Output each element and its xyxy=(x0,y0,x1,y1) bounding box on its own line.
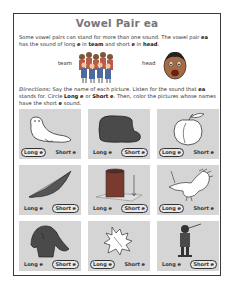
group-of-children-icon xyxy=(76,48,116,84)
answer-options: Long e Short e xyxy=(21,260,79,269)
answer-options: Long e Short e xyxy=(159,204,217,213)
seal-icon xyxy=(23,111,77,147)
directions-text: stands for. Circle xyxy=(19,93,64,99)
intro-word-team: team xyxy=(88,41,103,47)
picture-card-bread[interactable]: Long e Short e xyxy=(88,109,150,159)
option-long-e[interactable]: Long e xyxy=(159,204,184,213)
thread-spool-icon xyxy=(92,167,146,203)
worksheet-title: Vowel Pair ea xyxy=(14,17,220,29)
option-short-e[interactable]: Short e xyxy=(121,260,148,269)
example-row: team head xyxy=(14,48,220,84)
eagle-icon xyxy=(161,167,215,203)
answer-options: Long e Short e xyxy=(90,148,148,157)
option-long-e[interactable]: Long e xyxy=(90,204,115,213)
directions-long-e: Long e xyxy=(64,93,84,99)
option-short-e[interactable]: Short e xyxy=(52,148,79,157)
intro-word-head: head xyxy=(143,41,157,47)
option-long-e[interactable]: Long e xyxy=(90,148,115,157)
answer-options: Long e Short e xyxy=(159,148,217,157)
option-long-e[interactable]: Long e xyxy=(21,204,46,213)
directions-text: sound. xyxy=(62,100,81,106)
person-with-feather-icon xyxy=(161,223,215,259)
picture-card-feather[interactable]: Long e Short e xyxy=(19,165,81,215)
intro-text: Some vowel pairs can stand for more than… xyxy=(19,34,201,40)
answer-options: Long e Short e xyxy=(90,260,148,269)
answer-options: Long e Short e xyxy=(159,260,217,269)
answer-options: Long e Short e xyxy=(21,148,79,157)
worksheet: Vowel Pair ea Some vowel pairs can stand… xyxy=(13,13,221,276)
intro-text: in xyxy=(135,41,143,47)
option-short-e[interactable]: Short e xyxy=(52,204,79,213)
picture-card-sweater[interactable]: Long e Short e xyxy=(19,221,81,271)
answer-options: Long e Short e xyxy=(21,204,79,213)
intro-text: . xyxy=(157,41,159,47)
option-short-e[interactable]: Short e xyxy=(190,204,217,213)
picture-card-seal[interactable]: Long e Short e xyxy=(19,109,81,159)
intro-paragraph: Some vowel pairs can stand for more than… xyxy=(19,34,216,48)
intro-text: has the sound of long xyxy=(19,41,77,47)
option-long-e[interactable]: Long e xyxy=(21,148,46,157)
directions-label: Directions: xyxy=(19,86,51,92)
boy-face-icon xyxy=(162,49,188,81)
directions-text: or xyxy=(84,93,93,99)
leaf-icon xyxy=(92,223,146,259)
picture-card-feather-hat[interactable]: Long e Short e xyxy=(157,221,219,271)
option-long-e[interactable]: Long e xyxy=(90,260,115,269)
picture-card-peach[interactable]: Long e Short e xyxy=(157,109,219,159)
option-short-e[interactable]: Short e xyxy=(190,148,217,157)
bread-icon xyxy=(92,111,146,147)
peach-icon xyxy=(161,111,215,147)
example-word-head: head xyxy=(142,60,155,66)
option-short-e[interactable]: Short e xyxy=(52,260,79,269)
example-word-team: team xyxy=(58,60,72,66)
option-short-e[interactable]: Short e xyxy=(121,204,148,213)
directions-paragraph: Directions: Say the name of each picture… xyxy=(19,86,216,107)
picture-grid: Long e Short e Long e Short e Long e Sho… xyxy=(19,109,219,271)
feather-icon xyxy=(23,167,77,203)
option-long-e[interactable]: Long e xyxy=(159,260,184,269)
directions-text: Say the name of each picture. Listen for… xyxy=(51,86,198,92)
sweater-icon xyxy=(23,223,77,259)
picture-card-leaf[interactable]: Long e Short e xyxy=(88,221,150,271)
picture-card-thread[interactable]: Long e Short e xyxy=(88,165,150,215)
option-short-e[interactable]: Short e xyxy=(121,148,148,157)
option-short-e[interactable]: Short e xyxy=(190,260,217,269)
intro-vowel-pair: ea xyxy=(201,34,208,40)
option-long-e[interactable]: Long e xyxy=(21,260,46,269)
answer-options: Long e Short e xyxy=(90,204,148,213)
intro-text: and short xyxy=(103,41,131,47)
directions-vowel-pair: ea xyxy=(198,86,205,92)
option-long-e[interactable]: Long e xyxy=(159,148,184,157)
directions-short-e: Short e xyxy=(92,93,113,99)
picture-card-eagle[interactable]: Long e Short e xyxy=(157,165,219,215)
